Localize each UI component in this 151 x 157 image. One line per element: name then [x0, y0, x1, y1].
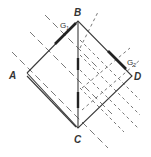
square-outline [27, 21, 132, 128]
point-label-c: C [74, 134, 82, 145]
diagram-canvas: B A D C G1 G2 [0, 0, 151, 157]
point-label-d: D [134, 71, 141, 82]
point-label-a: A [8, 70, 16, 81]
segment-label-g1: G1 [60, 21, 69, 31]
segment-g2 [108, 51, 126, 69]
segment-label-g2: G2 [127, 58, 136, 68]
point-label-b: B [74, 7, 81, 18]
dashed-lines-long [12, 15, 112, 148]
